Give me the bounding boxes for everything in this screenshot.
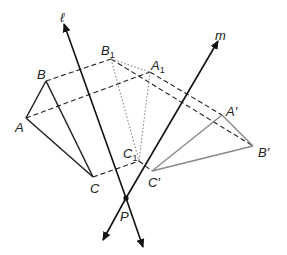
triangle-ABC bbox=[26, 81, 93, 177]
label-l: ℓ bbox=[60, 10, 65, 25]
label-B: B bbox=[37, 67, 46, 82]
triangle-AprimeBprimeCprime bbox=[152, 115, 253, 171]
point-P bbox=[123, 195, 128, 200]
label-B-prime: B′ bbox=[258, 145, 270, 160]
label-A: A bbox=[14, 120, 24, 135]
label-m: m bbox=[215, 28, 226, 43]
label-B1: B1 bbox=[101, 43, 115, 60]
reflection-diagram: ℓ m P A B C B1 A1 C1 A′ B′ C′ bbox=[0, 0, 287, 255]
connector-A1-Aprime bbox=[150, 72, 222, 115]
label-A-prime: A′ bbox=[225, 104, 238, 119]
connector-B-B1 bbox=[46, 59, 111, 81]
label-P: P bbox=[120, 209, 129, 224]
label-C1: C1 bbox=[123, 146, 137, 163]
label-C-prime: C′ bbox=[148, 175, 160, 190]
line-l bbox=[64, 24, 126, 198]
label-C: C bbox=[90, 181, 100, 196]
label-A1: A1 bbox=[150, 58, 165, 75]
line-m bbox=[126, 41, 218, 198]
